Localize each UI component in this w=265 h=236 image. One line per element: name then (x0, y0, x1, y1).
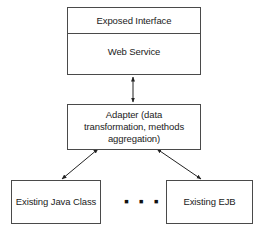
web-service-section: Web Service (68, 34, 200, 74)
existing-ejb-box: Existing EJB (166, 180, 253, 224)
arrow-adapter-java-class (62, 149, 98, 179)
adapter-box: Adapter (data transformation, methods ag… (67, 104, 201, 150)
exposed-interface-label: Exposed Interface (97, 15, 172, 27)
exposed-interface-header: Exposed Interface (68, 8, 200, 34)
arrow-adapter-ejb (157, 149, 201, 179)
web-service-box: Exposed Interface Web Service (67, 7, 201, 75)
adapter-label: Adapter (data transformation, methods ag… (74, 109, 194, 145)
existing-java-class-box: Existing Java Class (11, 180, 101, 224)
ellipsis-dots: ▪ ▪ ▪ (124, 197, 162, 205)
existing-java-class-label: Existing Java Class (16, 196, 96, 208)
existing-ejb-label: Existing EJB (183, 196, 235, 208)
web-service-label: Web Service (108, 46, 161, 58)
